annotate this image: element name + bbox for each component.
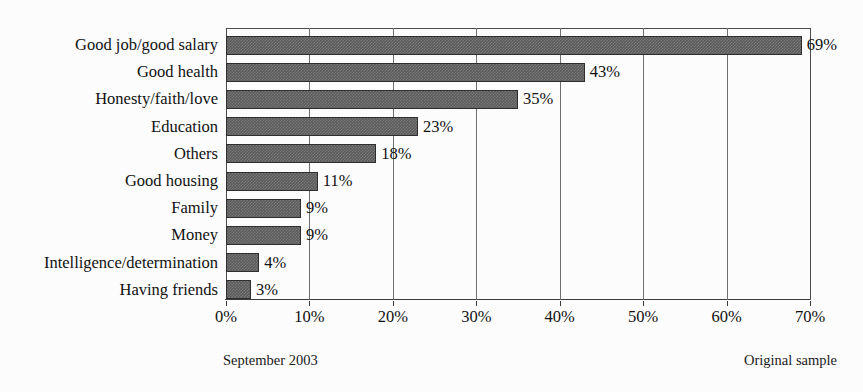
x-tick-label: 60% — [711, 307, 741, 327]
bar-row: 23% — [226, 117, 810, 136]
category-label: Good health — [137, 62, 218, 82]
x-tick-mark — [309, 301, 310, 306]
category-label: Having friends — [119, 280, 218, 300]
bar-value-label: 9% — [306, 199, 328, 217]
plot-frame-top — [226, 28, 810, 29]
bar-row: 9% — [226, 199, 810, 218]
bar-value-label: 69% — [807, 36, 837, 54]
x-tick-label: 20% — [378, 307, 408, 327]
bar-row: 35% — [226, 90, 810, 109]
bar — [226, 226, 301, 245]
bar — [226, 253, 259, 272]
bar-row: 3% — [226, 280, 810, 299]
bar-row: 11% — [226, 172, 810, 191]
bar-row: 9% — [226, 226, 810, 245]
x-tick-mark — [727, 301, 728, 306]
x-tick-mark — [226, 301, 227, 306]
bar-value-label: 4% — [264, 254, 286, 272]
x-tick-mark — [810, 301, 811, 306]
x-tick-mark — [643, 301, 644, 306]
bar-row: 4% — [226, 253, 810, 272]
footer-date: September 2003 — [223, 351, 318, 369]
x-tick-label: 70% — [795, 307, 825, 327]
category-label: Good housing — [125, 171, 218, 191]
bar-value-label: 43% — [590, 63, 620, 81]
bar — [226, 280, 251, 299]
category-label-column: Good job/good salaryGood healthHonesty/f… — [0, 28, 222, 300]
category-label: Family — [171, 198, 218, 218]
bar — [226, 199, 301, 218]
bar-row: 18% — [226, 144, 810, 163]
x-tick-mark — [476, 301, 477, 306]
category-label: Education — [151, 117, 218, 137]
bar-value-label: 35% — [523, 90, 553, 108]
bar — [226, 144, 376, 163]
x-tick-label: 10% — [294, 307, 324, 327]
plot-area: 69%43%35%23%18%11%9%9%4%3% — [226, 28, 810, 300]
x-tick-label: 30% — [461, 307, 491, 327]
x-tick-label: 40% — [545, 307, 575, 327]
x-tick-mark — [393, 301, 394, 306]
category-label: Intelligence/determination — [44, 253, 218, 273]
bar-value-label: 23% — [423, 118, 453, 136]
bar-value-label: 18% — [381, 145, 411, 163]
bar — [226, 63, 585, 82]
x-tick-label: 0% — [215, 307, 237, 327]
bar-value-label: 3% — [256, 281, 278, 299]
bar-row: 43% — [226, 63, 810, 82]
category-label: Good job/good salary — [75, 35, 218, 55]
chart-figure: Good job/good salaryGood healthHonesty/f… — [0, 0, 863, 392]
x-tick-label: 50% — [628, 307, 658, 327]
bar — [226, 172, 318, 191]
bar-value-label: 11% — [323, 172, 353, 190]
bar-value-label: 9% — [306, 226, 328, 244]
bar — [226, 36, 802, 55]
gridline-70 — [810, 28, 811, 300]
category-label: Money — [171, 225, 218, 245]
footer-sample-label: Original sample — [744, 351, 837, 369]
category-label: Honesty/faith/love — [95, 89, 218, 109]
bar-row: 69% — [226, 36, 810, 55]
x-axis: 0%10%20%30%40%50%60%70% — [226, 301, 810, 327]
bar — [226, 117, 418, 136]
x-tick-mark — [560, 301, 561, 306]
category-label: Others — [174, 144, 218, 164]
bar — [226, 90, 518, 109]
